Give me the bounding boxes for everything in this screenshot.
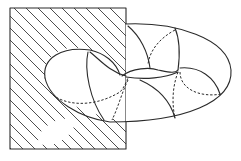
diagram-canvas [0,0,241,161]
torus-plane-diagram [0,0,241,161]
